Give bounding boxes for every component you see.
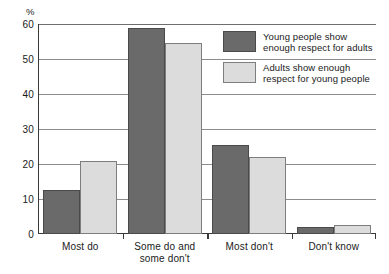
bar[interactable] [80,161,117,235]
bar[interactable] [334,225,371,234]
legend-label-line: respect for young people [263,73,370,84]
x-axis-tick-label-line: Some do and [123,241,208,253]
x-axis-tick-label-line: some don't [123,253,208,265]
legend-label-line: Young people show [263,31,373,42]
y-axis-tick-label: 60 [4,19,34,30]
bar[interactable] [297,227,334,234]
bar[interactable] [43,190,80,234]
y-axis-unit-label: % [26,6,35,17]
legend-item[interactable]: Young people showenough respect for adul… [223,31,381,53]
bar[interactable] [249,157,286,234]
x-axis-tick [375,234,377,239]
x-axis-tick [123,234,125,239]
legend-label-line: enough respect for adults [263,42,373,53]
x-axis-ticks [38,234,376,239]
bar-group [38,24,123,234]
legend-item[interactable]: Adults show enoughrespect for young peop… [223,62,381,84]
legend: Young people showenough respect for adul… [223,31,381,93]
y-axis-tick-label: 50 [4,54,34,65]
bar-chart: % 0102030405060 Most doSome do andsome d… [0,0,389,274]
bar-group [123,24,208,234]
y-axis-tick-label: 0 [4,229,34,240]
x-axis-tick [292,234,294,239]
legend-label: Adults show enoughrespect for young peop… [263,62,370,84]
x-axis-tick-labels: Most doSome do andsome don'tMost don'tDo… [38,241,376,265]
x-axis-tick [207,234,209,239]
bar[interactable] [212,145,249,234]
y-axis-tick-label: 20 [4,159,34,170]
x-axis-tick-label: Most don't [207,241,292,265]
y-axis-tick-labels: 0102030405060 [0,24,34,234]
x-axis-tick-label-line: Don't know [292,241,377,253]
x-axis-tick-label: Some do andsome don't [123,241,208,265]
legend-label: Young people showenough respect for adul… [263,31,373,53]
x-axis-tick-label: Most do [38,241,123,265]
x-axis-tick-label-line: Most do [38,241,123,253]
bar[interactable] [165,43,202,234]
bar[interactable] [128,28,165,235]
y-axis-tick-label: 40 [4,89,34,100]
legend-swatch [223,31,256,52]
x-axis-tick-label-line: Most don't [207,241,292,253]
legend-swatch [223,62,256,83]
y-axis-tick-label: 10 [4,194,34,205]
x-axis-tick-label: Don't know [292,241,377,265]
y-axis-tick-label: 30 [4,124,34,135]
legend-label-line: Adults show enough [263,62,370,73]
